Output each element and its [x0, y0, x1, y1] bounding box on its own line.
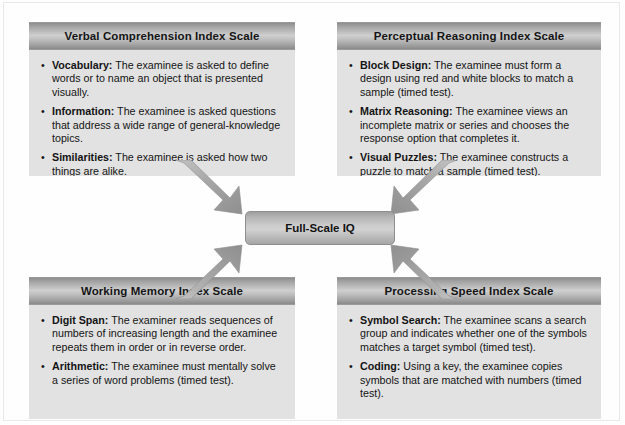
- list-item: • Visual Puzzles: The examinee construct…: [349, 151, 589, 176]
- verbal-comprehension-subtest-list: • Vocabulary: The examinee is asked to d…: [41, 59, 283, 176]
- list-item: • Matrix Reasoning: The examinee views a…: [349, 105, 589, 145]
- verbal-comprehension-index-body: • Vocabulary: The examinee is asked to d…: [29, 50, 295, 176]
- list-item: • Block Design: The examinee must form a…: [349, 59, 589, 99]
- working-memory-index-title: Working Memory Index Scale: [29, 277, 295, 305]
- perceptual-reasoning-index-body: • Block Design: The examinee must form a…: [337, 50, 601, 176]
- list-item: • Coding: Using a key, the examinee copi…: [349, 360, 589, 400]
- processing-speed-index-title: Processing Speed Index Scale: [337, 277, 601, 305]
- list-item: • Similarities: The examinee is asked ho…: [41, 151, 283, 176]
- list-item: • Arithmetic: The examinee must mentally…: [41, 360, 283, 387]
- working-memory-index-body: • Digit Span: The examiner reads sequenc…: [29, 305, 295, 397]
- subtest-term: Vocabulary:: [52, 59, 112, 71]
- list-item: • Vocabulary: The examinee is asked to d…: [41, 59, 283, 99]
- bullet-icon: •: [349, 59, 353, 72]
- verbal-comprehension-index-box[interactable]: Verbal Comprehension Index Scale • Vocab…: [29, 22, 295, 176]
- bullet-icon: •: [41, 314, 45, 327]
- subtest-term: Information:: [52, 105, 114, 117]
- bullet-icon: •: [349, 105, 353, 118]
- bullet-icon: •: [41, 105, 45, 118]
- subtest-term: Digit Span:: [52, 314, 108, 326]
- subtest-term: Block Design:: [360, 59, 431, 71]
- diagram-canvas: Verbal Comprehension Index Scale • Vocab…: [0, 0, 625, 425]
- full-scale-iq-label: Full-Scale IQ: [285, 222, 355, 234]
- bullet-icon: •: [349, 151, 353, 164]
- subtest-term: Coding:: [360, 360, 400, 372]
- subtest-term: Similarities:: [52, 151, 113, 163]
- full-scale-iq-node[interactable]: Full-Scale IQ: [245, 211, 395, 245]
- subtest-term: Visual Puzzles:: [360, 151, 437, 163]
- processing-speed-index-box[interactable]: Processing Speed Index Scale • Symbol Se…: [337, 277, 601, 419]
- bullet-icon: •: [349, 314, 353, 327]
- processing-speed-subtest-list: • Symbol Search: The examinee scans a se…: [349, 314, 589, 400]
- list-item: • Symbol Search: The examinee scans a se…: [349, 314, 589, 354]
- subtest-term: Symbol Search:: [360, 314, 441, 326]
- working-memory-index-box[interactable]: Working Memory Index Scale • Digit Span:…: [29, 277, 295, 419]
- subtest-term: Arithmetic:: [52, 360, 108, 372]
- working-memory-subtest-list: • Digit Span: The examiner reads sequenc…: [41, 314, 283, 387]
- list-item: • Information: The examinee is asked que…: [41, 105, 283, 145]
- bullet-icon: •: [41, 59, 45, 72]
- bullet-icon: •: [349, 360, 353, 373]
- processing-speed-index-body: • Symbol Search: The examinee scans a se…: [337, 305, 601, 410]
- list-item: • Digit Span: The examiner reads sequenc…: [41, 314, 283, 354]
- bullet-icon: •: [41, 360, 45, 373]
- perceptual-reasoning-index-box[interactable]: Perceptual Reasoning Index Scale • Block…: [337, 22, 601, 176]
- perceptual-reasoning-subtest-list: • Block Design: The examinee must form a…: [349, 59, 589, 176]
- subtest-term: Matrix Reasoning:: [360, 105, 453, 117]
- perceptual-reasoning-index-title: Perceptual Reasoning Index Scale: [337, 22, 601, 50]
- bullet-icon: •: [41, 151, 45, 164]
- verbal-comprehension-index-title: Verbal Comprehension Index Scale: [29, 22, 295, 50]
